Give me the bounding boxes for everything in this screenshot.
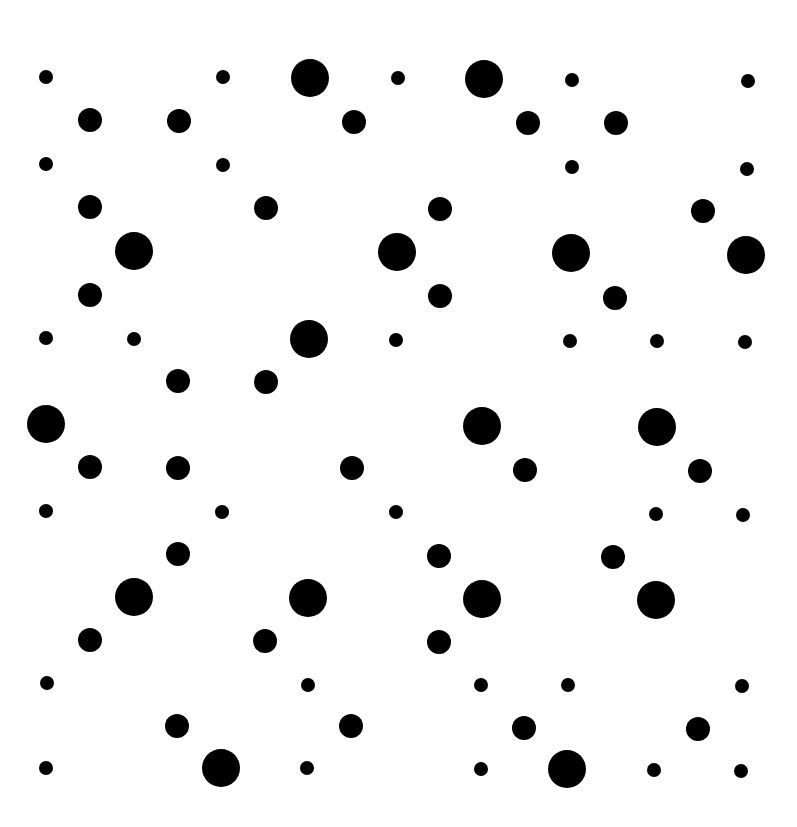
medium-dot (603, 286, 627, 310)
medium-dot (78, 195, 102, 219)
large-dot (115, 578, 153, 616)
medium-dot (78, 283, 102, 307)
small-dot (647, 763, 661, 777)
small-dot (301, 678, 315, 692)
large-dot (638, 408, 676, 446)
medium-dot (686, 717, 710, 741)
medium-dot (166, 456, 190, 480)
medium-dot (167, 109, 191, 133)
small-dot (39, 70, 53, 84)
medium-dot (688, 459, 712, 483)
small-dot (741, 74, 755, 88)
small-dot (735, 679, 749, 693)
large-dot (463, 407, 501, 445)
large-dot (465, 60, 503, 98)
small-dot (215, 505, 229, 519)
small-dot (300, 761, 314, 775)
large-dot (27, 405, 65, 443)
small-dot (389, 333, 403, 347)
medium-dot (254, 370, 278, 394)
large-dot (378, 233, 416, 271)
medium-dot (428, 284, 452, 308)
small-dot (649, 507, 663, 521)
large-dot (637, 581, 675, 619)
small-dot (650, 334, 664, 348)
large-dot (289, 579, 327, 617)
medium-dot (254, 196, 278, 220)
small-dot (389, 505, 403, 519)
medium-dot (604, 111, 628, 135)
large-dot (115, 232, 153, 270)
medium-dot (166, 369, 190, 393)
medium-dot (691, 199, 715, 223)
small-dot (565, 73, 579, 87)
large-dot (291, 59, 329, 97)
medium-dot (428, 197, 452, 221)
medium-dot (78, 628, 102, 652)
medium-dot (339, 714, 363, 738)
small-dot (391, 71, 405, 85)
small-dot (40, 676, 54, 690)
medium-dot (253, 629, 277, 653)
small-dot (474, 762, 488, 776)
medium-dot (78, 108, 102, 132)
small-dot (39, 331, 53, 345)
medium-dot (513, 458, 537, 482)
small-dot (740, 162, 754, 176)
medium-dot (516, 111, 540, 135)
small-dot (736, 508, 750, 522)
large-dot (463, 580, 501, 618)
large-dot (727, 236, 765, 274)
small-dot (563, 334, 577, 348)
medium-dot (165, 714, 189, 738)
large-dot (552, 234, 590, 272)
small-dot (127, 332, 141, 346)
large-dot (290, 320, 328, 358)
medium-dot (427, 630, 451, 654)
large-dot (202, 749, 240, 787)
small-dot (734, 764, 748, 778)
small-dot (738, 335, 752, 349)
medium-dot (342, 110, 366, 134)
small-dot (39, 504, 53, 518)
small-dot (565, 160, 579, 174)
small-dot (216, 70, 230, 84)
medium-dot (78, 455, 102, 479)
medium-dot (340, 456, 364, 480)
small-dot (39, 157, 53, 171)
medium-dot (512, 716, 536, 740)
small-dot (39, 761, 53, 775)
medium-dot (601, 545, 625, 569)
large-dot (548, 750, 586, 788)
medium-dot (427, 544, 451, 568)
small-dot (561, 678, 575, 692)
small-dot (474, 678, 488, 692)
dot-pattern-canvas (0, 0, 797, 827)
small-dot (216, 158, 230, 172)
medium-dot (166, 542, 190, 566)
